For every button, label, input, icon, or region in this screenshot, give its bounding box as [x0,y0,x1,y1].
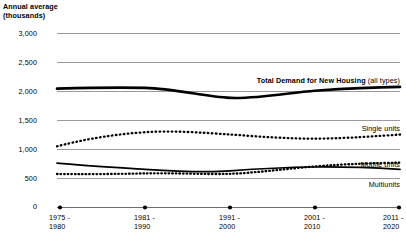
x-axis-marker-dot [397,205,401,209]
series-line-total-demand [57,87,400,98]
x-axis-marker-dot [58,205,62,209]
x-tick-label-1991-2000: 1991 - 2000 [219,213,240,232]
gridlines [57,34,400,179]
x-tick-label-2001-2010: 2001 - 2010 [304,213,325,232]
x-tick-label-1975-1980: 1975 - 1980 [49,213,70,232]
x-axis-marker-dot [228,205,232,209]
series-label-total-demand-suffix: (all types) [368,76,400,85]
series-label-total-demand-text: Total Demand for New Housing [257,76,366,85]
x-axis-marker-dot [143,205,147,209]
housing-demand-chart: Annual average (thousands) 3,000 2,500 2… [0,0,406,251]
series-line-single-units [57,132,400,147]
x-tick-label-1981-1990: 1981 - 1990 [134,213,155,232]
series-label-multiunits: Multiunits [369,180,400,189]
series-label-single-units: Single units [362,124,400,133]
series-line-mobile-units [57,163,400,174]
x-tick-label-2011-2020: 2011 - 2020 [383,213,403,232]
series-label-mobile-units: Mobile units [360,160,400,169]
series-label-total-demand: Total Demand for New Housing (all types) [257,76,400,85]
x-axis-marker-dot [313,205,317,209]
